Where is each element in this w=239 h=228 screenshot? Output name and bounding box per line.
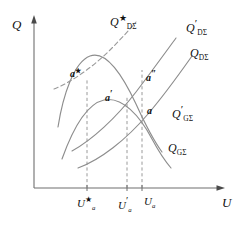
tick-label-u-a-prime-base: U bbox=[118, 199, 126, 211]
curve-label-qd-prime: Q′DΣ bbox=[186, 18, 207, 37]
x-axis-label: U bbox=[222, 196, 231, 209]
curve-label-qd-prime-base: Q bbox=[186, 21, 195, 35]
tick-label-u-a-prime-sup: ′ bbox=[126, 195, 128, 206]
curve-label-qd-star: Q★DΣ bbox=[110, 14, 137, 31]
point-label-a-base: a bbox=[147, 105, 152, 116]
tick-label-u-a-sub: a bbox=[152, 202, 155, 209]
point-label-a-star: a★ bbox=[70, 68, 81, 79]
curve-label-qd-star-sub: DΣ bbox=[127, 22, 137, 31]
curve-label-qd: QDΣ bbox=[190, 47, 209, 62]
point-label-a-double-prime: a″ bbox=[146, 70, 156, 83]
tick-label-u-a-base: U bbox=[144, 195, 152, 207]
curve-label-qd-prime-sub: DΣ bbox=[197, 28, 207, 37]
axes-group bbox=[31, 15, 225, 191]
tick-label-u-a-star: U★a bbox=[77, 196, 95, 212]
point-label-a: a bbox=[147, 106, 152, 116]
curve-label-qd-sub: DΣ bbox=[199, 53, 209, 62]
curve-label-qg-prime-sub: GΣ bbox=[183, 114, 193, 123]
tick-label-u-a: Ua bbox=[144, 196, 155, 210]
curve-label-qg-prime-base: Q bbox=[172, 107, 181, 121]
point-label-a-double-prime-sup: ″ bbox=[151, 69, 156, 79]
equilibrium-diagram: Q U Q★DΣ Q′DΣ QDΣ Q′GΣ QGΣ a★ a′ a″ a U★… bbox=[0, 0, 239, 228]
curve-label-qd-star-sup: ★ bbox=[119, 13, 127, 23]
curve-label-qg-prime: Q′GΣ bbox=[172, 104, 193, 123]
point-label-a-star-sup: ★ bbox=[75, 67, 81, 75]
y-axis-label: Q bbox=[12, 18, 21, 31]
x-axis-arrow bbox=[217, 185, 226, 191]
curve-label-qg-base: Q bbox=[168, 141, 177, 155]
curve-label-qg: QGΣ bbox=[168, 142, 187, 157]
y-axis-arrow bbox=[31, 15, 37, 24]
point-label-a-prime: a′ bbox=[105, 90, 113, 103]
curve-label-qd-base: Q bbox=[190, 46, 199, 60]
curve-label-qg-sub: GΣ bbox=[177, 148, 187, 157]
tick-label-u-a-star-base: U bbox=[77, 197, 85, 209]
point-label-a-prime-sup: ′ bbox=[110, 89, 113, 99]
curve-qg bbox=[62, 99, 171, 168]
curve-label-qd-star-base: Q bbox=[110, 15, 119, 29]
tick-label-u-a-prime: U′a bbox=[118, 196, 132, 214]
tick-label-u-a-prime-sub: a bbox=[128, 206, 131, 213]
curve-qd-prime bbox=[72, 38, 176, 151]
tick-label-u-a-star-sup: ★ bbox=[85, 195, 92, 204]
tick-label-u-a-star-sub: a bbox=[92, 204, 95, 211]
